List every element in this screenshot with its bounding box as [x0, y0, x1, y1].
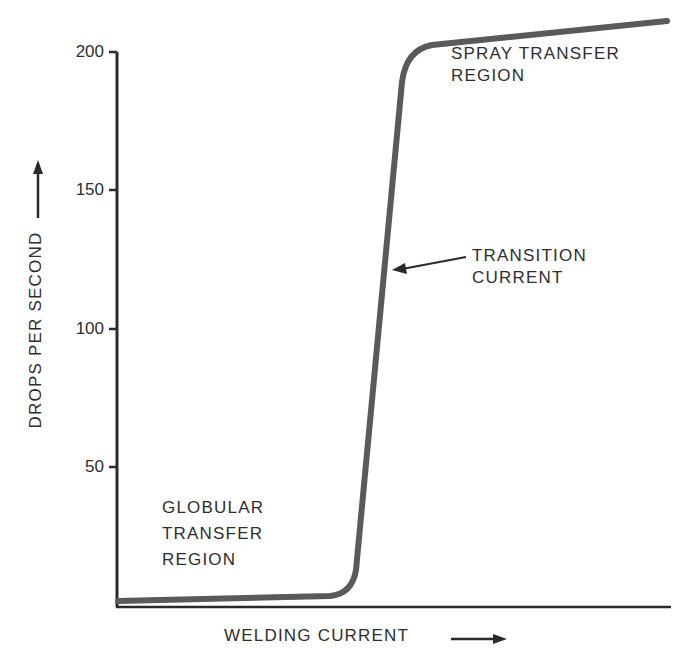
transition-line-2: CURRENT	[472, 267, 587, 289]
transition-line-1: TRANSITION	[472, 245, 587, 267]
transition-arrow-shaft	[402, 257, 466, 269]
y-tick-label-100: 100	[44, 319, 104, 339]
spray-line-1: SPRAY TRANSFER	[451, 43, 620, 65]
y-tick-label-50: 50	[44, 457, 104, 477]
globular-line-3: REGION	[162, 547, 264, 573]
y-label-arrow-icon	[33, 160, 43, 174]
globular-line-2: TRANSFER	[162, 521, 264, 547]
x-axis-label: WELDING CURRENT	[224, 626, 409, 646]
globular-line-1: GLOBULAR	[162, 495, 264, 521]
spray-line-2: REGION	[451, 65, 620, 87]
transition-arrow-icon	[392, 263, 407, 274]
x-label-arrow-icon	[493, 634, 507, 644]
y-axis-label: DROPS PER SECOND	[26, 232, 46, 429]
spray-transfer-annotation: SPRAY TRANSFER REGION	[451, 43, 620, 87]
globular-transfer-annotation: GLOBULAR TRANSFER REGION	[162, 495, 264, 573]
transition-current-annotation: TRANSITION CURRENT	[472, 245, 587, 289]
y-tick-label-200: 200	[44, 42, 104, 62]
y-tick-label-150: 150	[44, 180, 104, 200]
chart-canvas	[0, 0, 696, 668]
